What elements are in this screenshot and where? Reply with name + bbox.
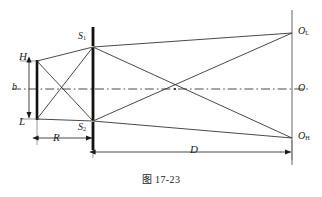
figure-caption-number: 17-23	[155, 174, 180, 185]
ray-H-to-S1	[37, 47, 93, 61]
node-points	[174, 88, 176, 90]
label-distance-R: R	[53, 132, 60, 143]
label-screen-point-upper: OL	[298, 26, 309, 37]
label-slit-s1-sub: 1	[83, 34, 86, 41]
figure-caption-prefix: 图	[142, 174, 152, 185]
label-screen-point-lower: OH	[298, 131, 310, 142]
figure-caption: 图 17-23	[0, 171, 322, 186]
label-screen-point-center: O	[298, 83, 305, 93]
ray-H-to-S2	[37, 61, 93, 121]
ray-bundle-source-to-slits	[37, 47, 93, 121]
label-source-bottom: L	[19, 116, 25, 127]
ray-S2-to-OL	[93, 33, 292, 121]
label-slit-s2-sub: 2	[83, 125, 86, 132]
ray-L-to-S2	[37, 119, 93, 121]
label-screen-point-lower-sub: H	[305, 134, 309, 141]
optics-diagram	[0, 0, 322, 197]
ray-S2-to-OH	[93, 121, 292, 138]
node-dot-crossing	[174, 88, 176, 90]
ray-bundle-slits-to-screen	[93, 33, 292, 138]
label-distance-D: D	[190, 144, 198, 155]
label-source-height: b	[12, 82, 17, 92]
label-slit-s1: S1	[78, 31, 86, 42]
ray-S1-to-OH	[93, 47, 292, 138]
ray-L-to-S1	[37, 47, 93, 119]
figure-container: H L b R D S1 S2 OL O OH 图 17-23	[0, 0, 322, 197]
label-slit-s2: S2	[78, 122, 86, 133]
ray-S1-to-OL	[93, 33, 292, 47]
label-screen-point-upper-sub: L	[305, 29, 309, 36]
label-source-top: H	[19, 51, 27, 62]
